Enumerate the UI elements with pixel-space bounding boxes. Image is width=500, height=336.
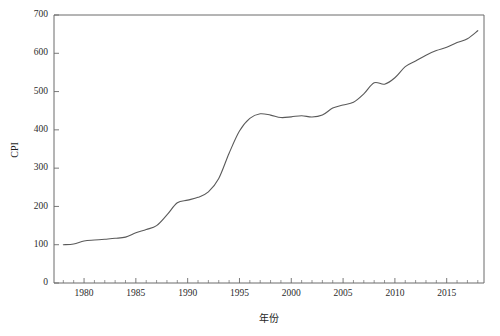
x-axis-minor-ticks <box>63 280 477 283</box>
y-axis-title: CPI <box>9 142 20 158</box>
chart-canvas: 19801985199019952000200520102015 0100200… <box>0 0 500 336</box>
x-tick-label: 2000 <box>282 288 301 298</box>
x-tick-label: 1990 <box>178 288 197 298</box>
plot-frame <box>54 15 484 283</box>
y-tick-label: 500 <box>34 86 49 96</box>
y-tick-label: 400 <box>34 124 49 134</box>
x-axis-major-ticks <box>84 278 447 283</box>
x-axis-title: 年份 <box>259 312 279 324</box>
x-tick-label: 2005 <box>334 288 353 298</box>
plot-border <box>54 15 484 283</box>
series-line-cpi <box>63 31 477 245</box>
y-tick-label: 0 <box>43 277 48 287</box>
x-tick-label: 2015 <box>437 288 456 298</box>
x-tick-label: 1985 <box>126 288 145 298</box>
y-axis-tick-labels: 0100200300400500600700 <box>34 9 49 287</box>
cpi-line-chart: 19801985199019952000200520102015 0100200… <box>0 0 500 336</box>
series-cpi <box>63 31 477 245</box>
y-tick-label: 300 <box>34 162 49 172</box>
x-tick-label: 1980 <box>75 288 94 298</box>
x-tick-label: 1995 <box>230 288 249 298</box>
y-tick-label: 600 <box>34 47 49 57</box>
y-tick-label: 700 <box>34 9 49 19</box>
y-axis-major-ticks <box>54 15 59 283</box>
y-tick-label: 200 <box>34 201 49 211</box>
x-axis-tick-labels: 19801985199019952000200520102015 <box>75 288 457 298</box>
y-tick-label: 100 <box>34 239 49 249</box>
x-tick-label: 2010 <box>385 288 404 298</box>
